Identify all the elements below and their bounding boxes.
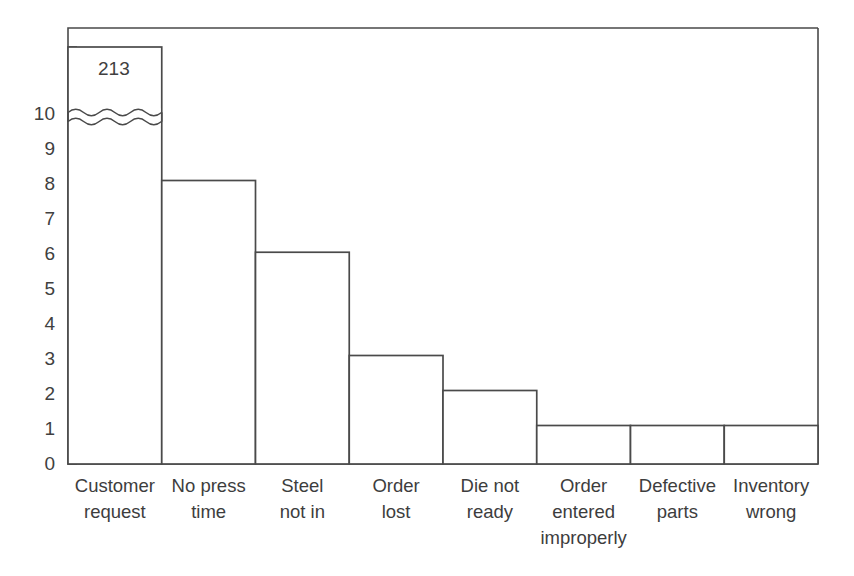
axis-break-symbol bbox=[68, 108, 162, 125]
y-axis-tick-label: 10 bbox=[34, 103, 55, 124]
y-axis-tick-label: 3 bbox=[44, 348, 55, 369]
category-label-line: lost bbox=[382, 501, 411, 522]
category-label-line: request bbox=[84, 501, 146, 522]
category-label-line: Steel bbox=[281, 475, 323, 496]
pareto-bar-chart: 012345678910 213 CustomerrequestNo press… bbox=[0, 0, 854, 576]
bar bbox=[724, 426, 818, 465]
category-label-line: Customer bbox=[75, 475, 155, 496]
category-label-line: Order bbox=[560, 475, 607, 496]
bar bbox=[256, 252, 350, 464]
bar bbox=[349, 356, 443, 465]
category-label-line: time bbox=[191, 501, 226, 522]
y-axis-tick-label: 9 bbox=[44, 138, 55, 159]
category-label-line: parts bbox=[657, 501, 698, 522]
category-label-line: Order bbox=[372, 475, 419, 496]
bar bbox=[631, 426, 725, 465]
category-label-line: not in bbox=[280, 501, 325, 522]
y-axis-tick-label: 7 bbox=[44, 208, 55, 229]
category-label-line: ready bbox=[467, 501, 514, 522]
category-label-line: improperly bbox=[540, 527, 627, 548]
bar-value-label: 213 bbox=[98, 58, 130, 79]
y-axis-tick-label: 5 bbox=[44, 278, 55, 299]
y-axis-tick-label: 6 bbox=[44, 243, 55, 264]
chart-canvas: 012345678910 213 CustomerrequestNo press… bbox=[0, 0, 854, 576]
bar bbox=[537, 426, 631, 465]
y-axis-tick-label: 4 bbox=[44, 313, 55, 334]
y-axis-tick-label: 1 bbox=[44, 418, 55, 439]
y-axis-tick-label: 2 bbox=[44, 383, 55, 404]
category-label-line: Defective bbox=[639, 475, 716, 496]
axis-break-mask bbox=[69, 108, 160, 125]
category-label-line: Inventory bbox=[733, 475, 810, 496]
bar bbox=[162, 181, 256, 465]
category-label-line: wrong bbox=[745, 501, 796, 522]
y-axis-tick-label: 8 bbox=[44, 173, 55, 194]
bar bbox=[443, 391, 537, 465]
y-axis-tick-label: 0 bbox=[44, 453, 55, 474]
category-label-line: entered bbox=[552, 501, 615, 522]
category-label-line: Die not bbox=[461, 475, 520, 496]
bar-value-labels: 213 bbox=[98, 58, 130, 79]
category-label-line: No press bbox=[172, 475, 246, 496]
